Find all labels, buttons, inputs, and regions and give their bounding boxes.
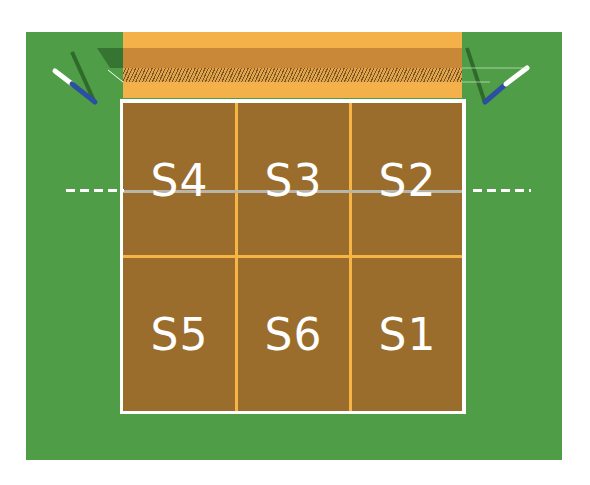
zone-s5: S5: [123, 258, 236, 411]
right-antenna-icon: [506, 68, 527, 84]
right-center-dash: [473, 189, 531, 192]
court: S4 S3 S2 S5 S6 S1: [123, 103, 462, 411]
left-post-shadow-icon: [97, 48, 123, 68]
right-post-shadow-icon: [467, 48, 485, 103]
zone-s3: S3: [237, 103, 350, 258]
zone-s2: S2: [351, 103, 464, 258]
left-antenna-icon: [55, 71, 72, 84]
zone-s4: S4: [123, 103, 236, 258]
left-center-dash: [66, 189, 124, 192]
zone-s6: S6: [237, 258, 350, 411]
right-post-icon: [485, 84, 506, 102]
zone-s1: S1: [351, 258, 464, 411]
left-net-edge: [108, 70, 123, 82]
